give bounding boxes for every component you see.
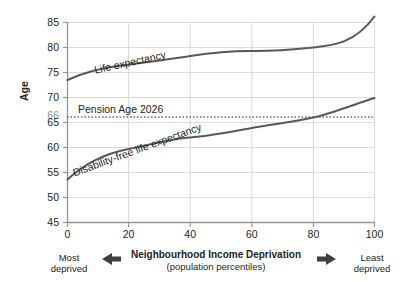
least-deprived-label-line1: Least [341, 252, 403, 264]
y-axis-title: Age [18, 81, 30, 101]
y-tick-65: 65 [33, 117, 59, 128]
x-tick-60: 60 [237, 229, 267, 240]
y-tick-75: 75 [33, 67, 59, 78]
arrow-right-icon [317, 253, 336, 265]
x-tick-100: 100 [360, 229, 390, 240]
y-tick-60: 60 [33, 142, 59, 153]
y-axis-ticks [63, 23, 67, 223]
most-deprived-label-line2: deprived [38, 263, 100, 275]
x-tick-20: 20 [114, 229, 144, 240]
y-tick-80: 80 [33, 42, 59, 53]
x-tick-0: 0 [53, 229, 83, 240]
chart-container: Age 85 80 75 70 66 65 60 55 50 45 0 20 4… [0, 0, 403, 282]
y-tick-85: 85 [33, 17, 59, 28]
x-tick-40: 40 [175, 229, 205, 240]
x-tick-80: 80 [298, 229, 328, 240]
x-axis-subtitle: (population percentiles) [121, 261, 311, 273]
y-tick-50: 50 [33, 192, 59, 203]
y-tick-70: 70 [33, 92, 59, 103]
least-deprived-label-line2: deprived [341, 263, 403, 275]
most-deprived-label-line1: Most [38, 252, 100, 264]
pension-age-label: Pension Age 2026 [78, 103, 163, 115]
y-tick-45: 45 [33, 217, 59, 228]
y-tick-55: 55 [33, 167, 59, 178]
x-axis-title: Neighbourhood Income Deprivation [121, 249, 311, 261]
arrow-left-icon [102, 253, 121, 265]
